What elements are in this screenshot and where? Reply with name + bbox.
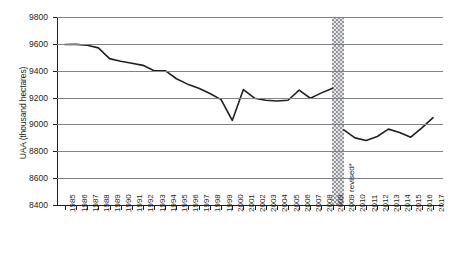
gridline-9800 <box>57 17 443 18</box>
uaa-line-chart: UAA (thousand hectares) 9800960094009200… <box>0 0 451 274</box>
x-tick-label-2017: 2017 <box>437 194 446 212</box>
y-tick-label-8800: 8800 <box>16 147 48 155</box>
gridline-9600 <box>57 44 443 45</box>
x-tick-mark-2008 <box>321 205 322 210</box>
x-tick-mark-2002 <box>255 205 256 210</box>
gridline-9200 <box>57 98 443 99</box>
x-tick-mark-2015 <box>411 205 412 210</box>
x-tick-mark-1987 <box>87 205 88 210</box>
x-tick-mark-1998 <box>210 205 211 210</box>
x-tick-mark-2016 <box>422 205 423 210</box>
series-line-segment-2 <box>344 118 433 141</box>
x-tick-mark-2010 <box>355 205 356 210</box>
x-tick-mark-1991 <box>132 205 133 210</box>
x-tick-mark-2017 <box>433 205 434 210</box>
y-tick-mark-9400 <box>53 71 57 72</box>
y-tick-mark-8800 <box>53 151 57 152</box>
y-tick-mark-9200 <box>53 98 57 99</box>
plot-area <box>57 17 443 205</box>
y-tick-label-8600: 8600 <box>16 174 48 182</box>
x-tick-mark-1992 <box>143 205 144 210</box>
y-tick-label-8400: 8400 <box>16 201 48 209</box>
x-tick-mark-2001 <box>243 205 244 210</box>
x-tick-mark-2009-revised- <box>344 205 345 210</box>
y-tick-mark-9000 <box>53 124 57 125</box>
y-tick-label-9800: 9800 <box>16 13 48 21</box>
y-tick-label-9600: 9600 <box>16 40 48 48</box>
series-line-segment-1 <box>65 44 333 120</box>
x-tick-mark-2011 <box>366 205 367 210</box>
y-tick-mark-8600 <box>53 178 57 179</box>
y-tick-mark-9800 <box>53 17 57 18</box>
y-tick-mark-9600 <box>53 44 57 45</box>
x-tick-mark-2009 <box>333 205 334 210</box>
gridline-9000 <box>57 124 443 125</box>
x-tick-mark-1996 <box>188 205 189 210</box>
x-tick-mark-2000 <box>232 205 233 210</box>
x-tick-mark-1985 <box>65 205 66 210</box>
x-tick-mark-2007 <box>310 205 311 210</box>
x-tick-mark-2014 <box>400 205 401 210</box>
gridline-8800 <box>57 151 443 152</box>
gridline-8600 <box>57 178 443 179</box>
x-tick-mark-2013 <box>388 205 389 210</box>
x-tick-mark-1995 <box>176 205 177 210</box>
x-tick-mark-1999 <box>221 205 222 210</box>
y-tick-label-9000: 9000 <box>16 120 48 128</box>
x-tick-mark-2003 <box>266 205 267 210</box>
x-tick-mark-1994 <box>165 205 166 210</box>
x-tick-mark-2006 <box>299 205 300 210</box>
x-tick-mark-2005 <box>288 205 289 210</box>
x-tick-mark-1990 <box>121 205 122 210</box>
x-tick-mark-1993 <box>154 205 155 210</box>
y-tick-label-9400: 9400 <box>16 67 48 75</box>
x-tick-mark-1986 <box>76 205 77 210</box>
y-axis-tick-labels: 98009600940092009000880086008400 <box>14 0 48 274</box>
x-tick-mark-1989 <box>110 205 111 210</box>
y-tick-label-9200: 9200 <box>16 94 48 102</box>
x-tick-mark-1997 <box>199 205 200 210</box>
gridline-9400 <box>57 71 443 72</box>
x-tick-mark-2012 <box>377 205 378 210</box>
series-line-group <box>57 17 443 205</box>
x-tick-mark-1988 <box>98 205 99 210</box>
x-tick-mark-2004 <box>277 205 278 210</box>
